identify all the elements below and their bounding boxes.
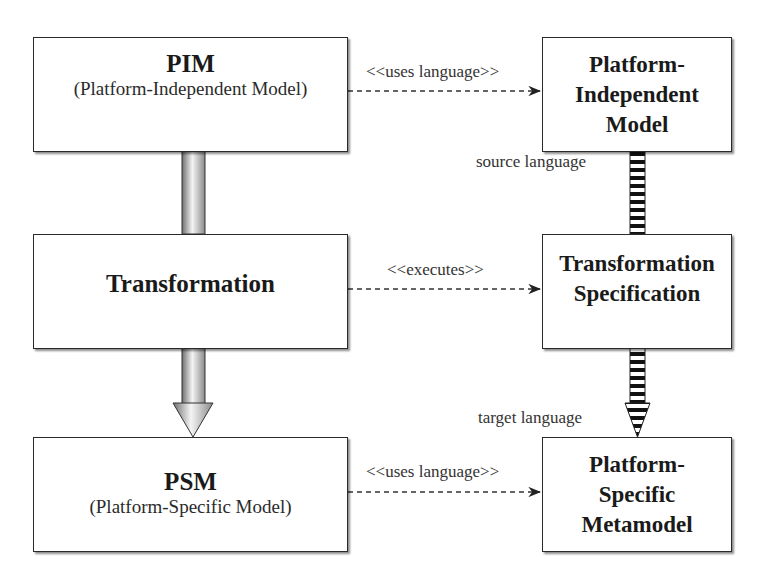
psm-subtitle: (Platform-Specific Model) bbox=[89, 496, 291, 518]
target-language-label: target language bbox=[478, 408, 582, 428]
pim-subtitle: (Platform-Independent Model) bbox=[74, 78, 308, 100]
psm-uses-language-label: <<uses language>> bbox=[366, 462, 499, 482]
psm-metamodel-line3: Metamodel bbox=[581, 510, 692, 540]
psm-metamodel-box: Platform- Specific Metamodel bbox=[542, 437, 732, 552]
striped-connector-source-language bbox=[630, 151, 645, 234]
striped-arrow-target-language bbox=[625, 348, 650, 437]
pim-metamodel-line1: Platform- bbox=[589, 50, 685, 80]
shaded-arrow-transformation-psm bbox=[173, 348, 213, 437]
psm-metamodel-line1: Platform- bbox=[589, 450, 685, 480]
pim-box: PIM (Platform-Independent Model) bbox=[33, 37, 348, 152]
pim-metamodel-box: Platform- Independent Model bbox=[542, 37, 732, 152]
pim-metamodel-line3: Model bbox=[606, 110, 669, 140]
psm-box: PSM (Platform-Specific Model) bbox=[33, 437, 348, 552]
source-language-label: source language bbox=[476, 152, 586, 172]
pim-title: PIM bbox=[166, 50, 215, 78]
pim-uses-language-label: <<uses language>> bbox=[366, 62, 499, 82]
transformation-spec-box: Transformation Specification bbox=[542, 234, 732, 349]
shaded-connector-pim-transformation bbox=[182, 151, 205, 234]
transformation-spec-line1: Transformation bbox=[559, 249, 714, 279]
transformation-box: Transformation bbox=[33, 234, 348, 349]
psm-metamodel-line2: Specific bbox=[599, 480, 676, 510]
transformation-spec-line2: Specification bbox=[574, 279, 701, 309]
pim-metamodel-line2: Independent bbox=[575, 80, 699, 110]
executes-label: <<executes>> bbox=[387, 260, 484, 280]
psm-title: PSM bbox=[164, 468, 217, 496]
transformation-title: Transformation bbox=[106, 270, 275, 298]
